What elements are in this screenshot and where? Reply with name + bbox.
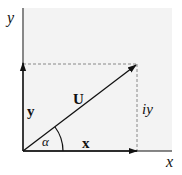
x-axis-label: x bbox=[165, 153, 173, 170]
vector-x-label: x bbox=[82, 135, 90, 151]
vector-u-label: U bbox=[73, 91, 84, 107]
angle-alpha-label: α bbox=[42, 134, 50, 149]
y-axis-label: y bbox=[5, 9, 15, 27]
projection-iy-label: iy bbox=[142, 101, 153, 117]
vector-diagram: y x y U x α iy bbox=[0, 0, 182, 175]
vector-y-label: y bbox=[27, 103, 35, 119]
shaded-plane-region bbox=[24, 8, 172, 151]
